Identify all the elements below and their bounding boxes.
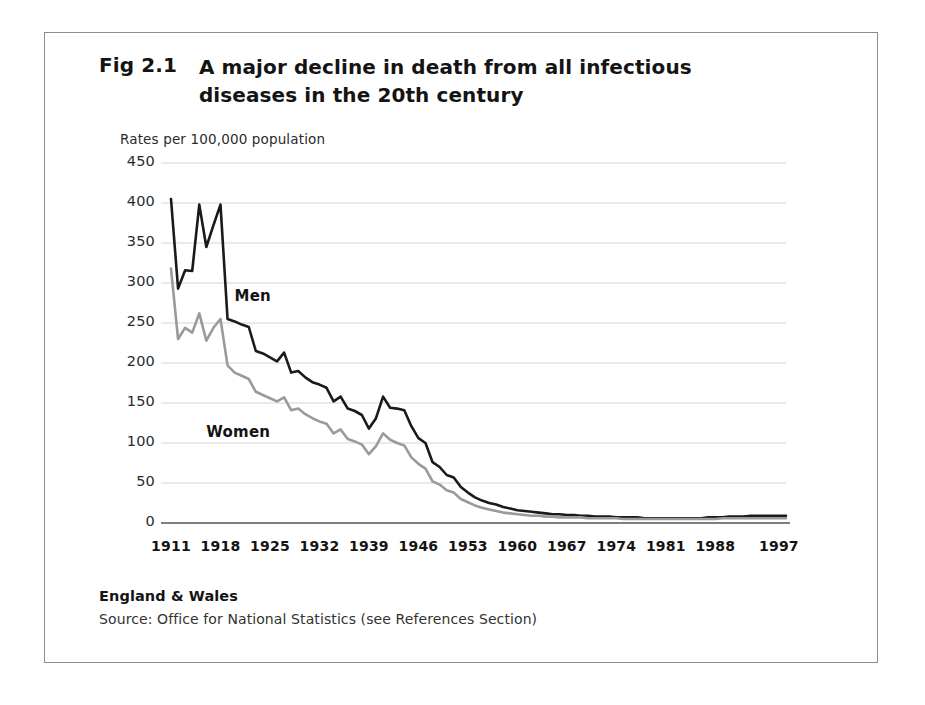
figure-frame: Fig 2.1 A major decline in death from al…: [44, 32, 878, 663]
line-chart-svg: [45, 33, 879, 664]
series-lines-group: [171, 199, 786, 519]
series-line-women: [171, 269, 786, 519]
y-tick-label: 200: [109, 353, 155, 369]
x-tick-label: 1932: [300, 538, 340, 554]
x-tick-label: 1988: [695, 538, 735, 554]
x-tick-label: 1939: [349, 538, 389, 554]
x-tick-label: 1967: [547, 538, 587, 554]
y-tick-label: 150: [109, 393, 155, 409]
y-tick-label: 100: [109, 433, 155, 449]
x-tick-label: 1918: [201, 538, 241, 554]
x-tick-label: 1997: [759, 538, 799, 554]
source-label: Source: Office for National Statistics (…: [99, 611, 819, 627]
x-tick-label: 1981: [646, 538, 686, 554]
x-tick-label: 1946: [399, 538, 439, 554]
y-tick-label: 250: [109, 313, 155, 329]
x-tick-label: 1974: [596, 538, 636, 554]
y-tick-label: 450: [109, 153, 155, 169]
x-tick-label: 1911: [151, 538, 191, 554]
y-tick-label: 350: [109, 233, 155, 249]
y-tick-label: 400: [109, 193, 155, 209]
chart-plot-area: 0501001502002503003504004501911191819251…: [45, 33, 879, 664]
series-line-men: [171, 199, 786, 518]
x-tick-label: 1953: [448, 538, 488, 554]
region-label: England & Wales: [99, 588, 819, 604]
y-tick-label: 50: [109, 473, 155, 489]
y-tick-label: 0: [109, 513, 155, 529]
series-annotation-women: Women: [206, 423, 270, 441]
series-annotation-men: Men: [235, 287, 271, 305]
x-tick-label: 1925: [250, 538, 290, 554]
figure-footer: England & Wales Source: Office for Natio…: [99, 588, 819, 627]
y-tick-label: 300: [109, 273, 155, 289]
x-tick-label: 1960: [497, 538, 537, 554]
